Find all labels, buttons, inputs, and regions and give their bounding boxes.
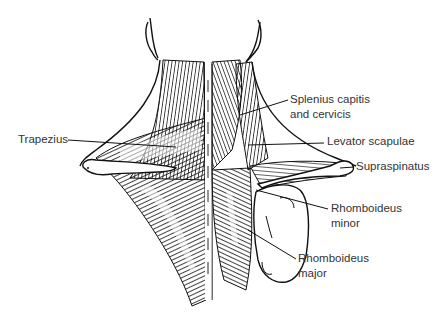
head-outline-right	[246, 20, 261, 62]
levator-scapulae-right	[236, 62, 268, 170]
label-levator-scapulae: Levator scapulae	[327, 134, 415, 149]
head-outline-left	[146, 18, 158, 60]
label-rhomboideus-major: Rhomboideus major	[298, 251, 369, 281]
label-trapezius: Trapezius	[18, 132, 68, 147]
label-splenius: Splenius capitis and cervicis	[290, 92, 370, 122]
label-supraspinatus: Supraspinatus	[356, 159, 430, 174]
label-rhomboideus-minor: Rhomboideus minor	[331, 201, 402, 231]
spine-midline	[204, 62, 212, 300]
anatomy-figure: Trapezius Splenius capitis and cervicis …	[0, 0, 438, 328]
